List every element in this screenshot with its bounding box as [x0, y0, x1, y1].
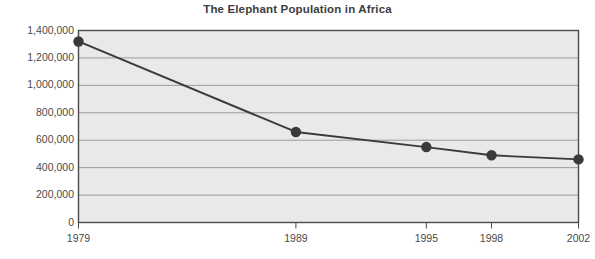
- data-point-marker: [573, 154, 583, 164]
- elephant-population-line-chart: The Elephant Population in Africa 0200,0…: [0, 0, 595, 259]
- data-point-marker: [291, 127, 301, 137]
- plot-area: [0, 0, 595, 259]
- data-point-marker: [486, 150, 496, 160]
- x-axis-tick-marks: [79, 223, 579, 229]
- plot-background: [79, 31, 579, 223]
- data-point-marker: [73, 36, 83, 46]
- data-point-marker: [421, 142, 431, 152]
